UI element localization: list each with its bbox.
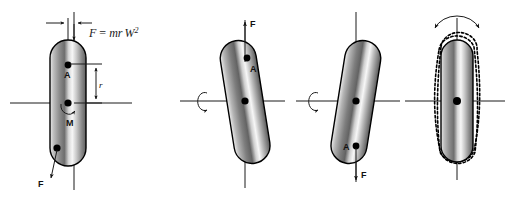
physics-figure: F=mrW2 A r M F [0,0,513,201]
panel2-label-f: F [250,19,256,29]
panel-couple-tilt-left: A F [296,12,400,182]
unbalance-force-formula: F=mrW2 [88,26,138,40]
panel-couple-tilt-right: F A [180,19,285,188]
panel1-center-dot [64,99,71,106]
panel1-label-r: r [99,80,103,90]
panel3-label-f: F [361,170,367,180]
figure-canvas: F=mrW2 A r M F [0,0,513,201]
panel1-label-m: M [66,118,74,128]
panel3-label-a: A [343,142,350,152]
panel1-label-f: F [38,179,44,189]
panel1-label-a: A [64,70,71,80]
panel2-center-dot [241,97,248,104]
panel4-center-dot [453,97,461,105]
panel2-label-a: A [250,64,257,74]
panel3-center-dot [352,97,359,104]
panel1-point-a-dot [65,62,72,69]
panel2-point-a-dot [244,55,251,62]
panel-rocking-whirl [405,16,505,180]
panel-static-unbalance: F=mrW2 A r M F [10,12,138,190]
